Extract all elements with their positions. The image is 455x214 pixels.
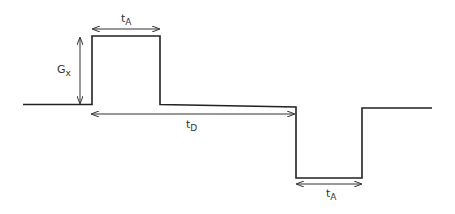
amplitude-label: Gx	[57, 64, 71, 78]
pulse-width-bottom-label: tA	[326, 188, 337, 202]
pulse-width-top-label: tA	[121, 13, 132, 27]
waveform-diagram	[0, 0, 455, 214]
waveform-line	[23, 36, 432, 178]
delay-label: tD	[186, 119, 197, 133]
